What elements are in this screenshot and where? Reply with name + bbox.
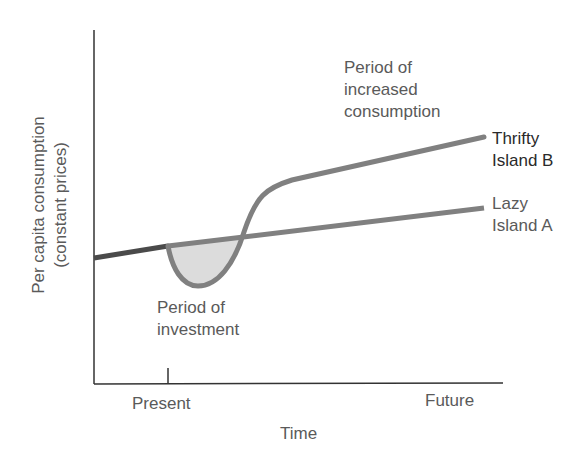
series-label-line: Island B	[492, 150, 553, 172]
x-tick-present: Present	[132, 393, 191, 415]
annotation-line: Period of	[344, 57, 440, 79]
y-axis-label-line1: Per capita consumption	[28, 55, 50, 355]
annotation-line: increased	[344, 79, 440, 101]
investment-annotation: Period of investment	[157, 297, 239, 341]
thrifty-island-b-label: Thrifty Island B	[492, 128, 553, 172]
increased-consumption-annotation: Period of increased consumption	[344, 57, 440, 123]
annotation-line: consumption	[344, 101, 440, 123]
annotation-line: Period of	[157, 297, 239, 319]
x-tick-future: Future	[425, 390, 474, 412]
series-label-line: Thrifty	[492, 128, 553, 150]
y-axis-label: Per capita consumption (constant prices)	[28, 55, 72, 355]
x-axis-label: Time	[280, 423, 317, 445]
annotation-line: investment	[157, 319, 239, 341]
lazy-island-a-label: Lazy Island A	[492, 193, 553, 237]
shared-past-line	[94, 246, 168, 258]
series-label-line: Lazy	[492, 193, 553, 215]
y-axis-label-line2: (constant prices)	[50, 55, 72, 355]
lazy-island-a-line	[168, 208, 484, 246]
x-axis	[94, 383, 503, 384]
series-label-line: Island A	[492, 215, 553, 237]
